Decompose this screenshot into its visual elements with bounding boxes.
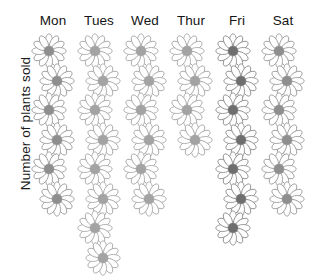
column-header-thur: Thur — [168, 13, 214, 28]
column-header-fri: Fri — [214, 13, 260, 28]
column-header-sat: Sat — [260, 13, 306, 28]
flower-stack-fri — [214, 33, 260, 248]
flower-stack-tues — [76, 33, 122, 277]
flower-icon — [131, 181, 167, 217]
flower-stack-thur — [168, 33, 214, 159]
flower-icon — [269, 181, 305, 217]
column-header-mon: Mon — [30, 13, 76, 28]
flower-icon — [215, 210, 251, 246]
flower-icon — [177, 122, 213, 158]
flower-stack-sat — [260, 33, 306, 218]
plot-area: MonTuesWedThurFriSat — [30, 0, 309, 268]
flower-icon — [39, 181, 75, 217]
column-header-wed: Wed — [122, 13, 168, 28]
column-header-tues: Tues — [76, 13, 122, 28]
flower-stack-mon — [30, 33, 76, 218]
flower-icon — [85, 240, 121, 276]
flower-stack-wed — [122, 33, 168, 218]
